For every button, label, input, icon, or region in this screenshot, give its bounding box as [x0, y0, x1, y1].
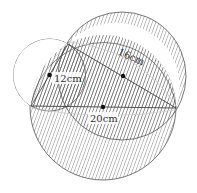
center-dot-ab [47, 73, 51, 77]
label-bc: 20cm [90, 113, 118, 124]
center-dot-ac [121, 74, 125, 78]
geometry-diagram: 12cm 20cm 16cm [0, 0, 197, 193]
label-ab: 12cm [54, 73, 82, 84]
center-dot-bc [101, 105, 105, 109]
